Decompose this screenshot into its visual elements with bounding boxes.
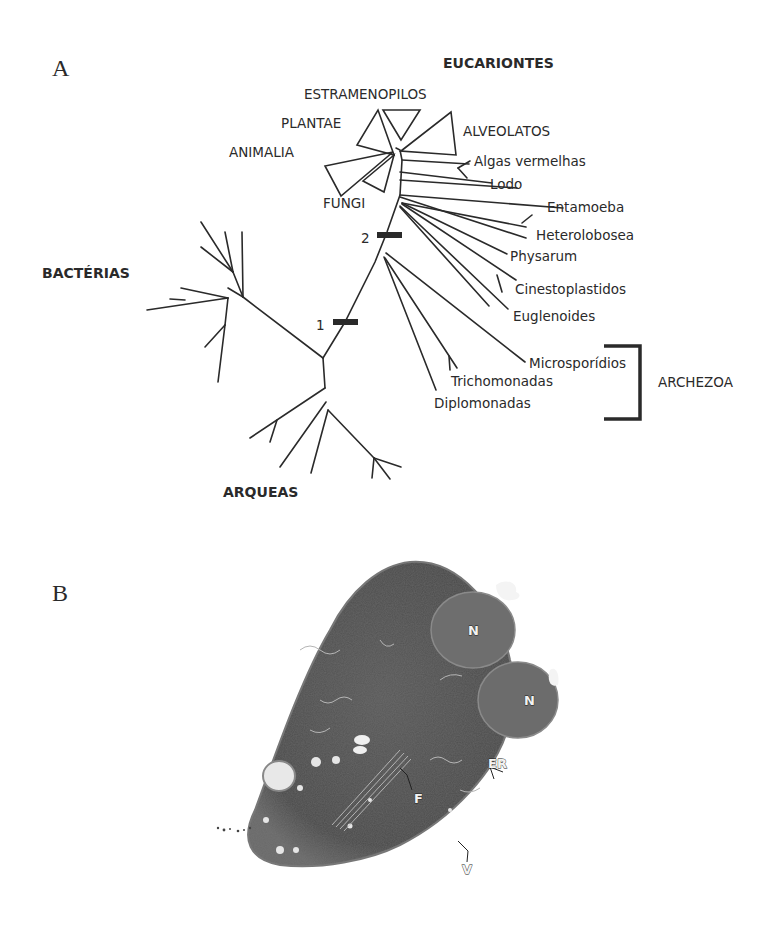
clade-fungi: FUNGI: [323, 195, 365, 211]
animalia-triangle: [325, 152, 393, 196]
taxon-diplomonadas: Diplomonadas: [434, 395, 531, 411]
archezoa-label: ARCHEZOA: [658, 374, 734, 390]
trunk-branch: [323, 148, 402, 358]
nucleus-2: [478, 662, 558, 738]
vacuole: [496, 581, 519, 600]
label-nucleus-1: N: [468, 623, 479, 638]
taxon-trichomonadas: Trichomonadas: [450, 373, 553, 389]
taxon-physarum: Physarum: [510, 248, 577, 264]
marker-2-label: 2: [361, 230, 370, 246]
taxon-lodo: Lodo: [490, 176, 522, 192]
taxon-heterolobosea: Heterolobosea: [536, 227, 634, 243]
taxon-euglenoides: Euglenoides: [513, 308, 595, 324]
alveolatos-triangle: [401, 112, 456, 155]
taxon-algas-vermelhas: Algas vermelhas: [474, 153, 586, 169]
taxon-microsporidios: Microsporídios: [529, 355, 626, 371]
label-flagella: F: [414, 791, 423, 806]
archaea-label: ARQUEAS: [223, 484, 298, 500]
label-nucleus-2: N: [524, 693, 535, 708]
marker-1-bar: [333, 319, 358, 325]
eukaryotes-label: EUCARIONTES: [443, 55, 554, 71]
estramenopilos-triangle: [383, 110, 420, 140]
taxon-cinestoplastidos: Cinestoplastidos: [515, 281, 626, 297]
label-vacuole: V: [462, 862, 472, 877]
panel-b-label: B: [52, 580, 68, 607]
marker-1-label: 1: [316, 317, 325, 333]
clade-animalia: ANIMALIA: [229, 144, 295, 160]
phylogenetic-tree: EUCARIONTES BACTÉRIAS ARQUEAS ESTRAMENOP…: [0, 0, 782, 520]
electron-micrograph: N N ER F V: [200, 550, 600, 920]
clade-plantae: PLANTAE: [281, 115, 341, 131]
clade-estramenopilos: ESTRAMENOPILOS: [304, 86, 427, 102]
marker-2-bar: [377, 232, 402, 238]
taxon-entamoeba: Entamoeba: [547, 199, 624, 215]
bacteria-label: BACTÉRIAS: [42, 265, 130, 281]
label-er: ER: [488, 756, 507, 771]
plantae-triangle: [357, 110, 394, 155]
clade-alveolatos: ALVEOLATOS: [463, 123, 550, 139]
